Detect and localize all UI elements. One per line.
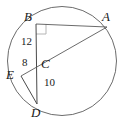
point-label-a: A	[102, 10, 110, 23]
segment-ea	[21, 27, 107, 76]
circle-geometry-figure: A B C D E 12 8 10	[0, 0, 125, 123]
measure-label-bc: 12	[21, 36, 32, 47]
segment-bd	[36, 24, 37, 104]
measure-label-cd: 10	[44, 77, 55, 88]
point-label-b: B	[24, 10, 32, 23]
right-angle-marker	[36, 24, 46, 34]
point-label-e: E	[6, 68, 14, 81]
measure-label-ec: 8	[22, 57, 28, 68]
point-label-c: C	[41, 57, 50, 70]
segment-ba	[36, 24, 107, 27]
point-label-d: D	[31, 106, 40, 119]
